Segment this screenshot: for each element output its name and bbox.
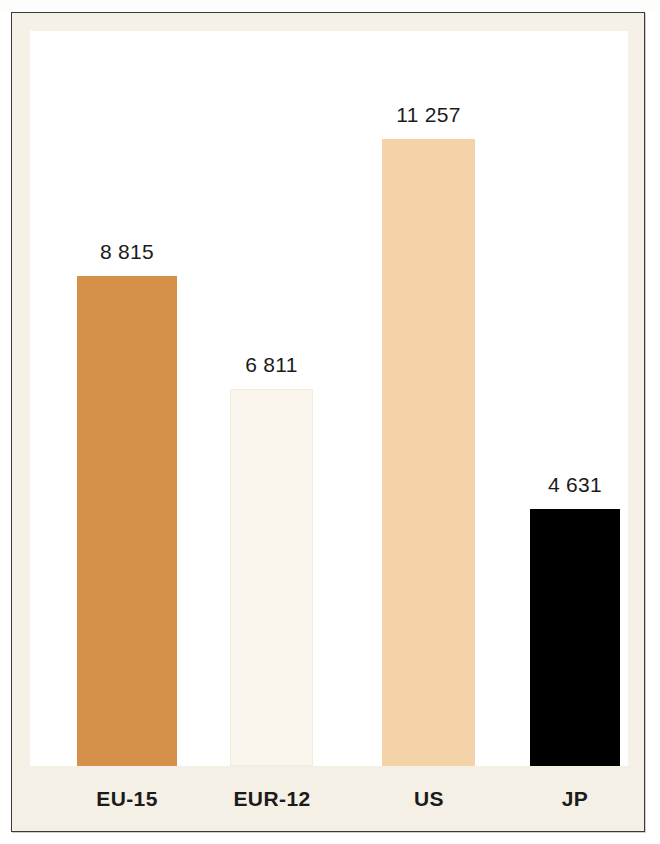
category-label-us: US	[414, 787, 444, 811]
bar-group-eu-15: 8 815	[77, 31, 177, 766]
bar-rect-jp	[530, 509, 620, 766]
category-label-eur-12: EUR-12	[233, 787, 310, 811]
category-axis-band: EU-15 EUR-12 US JP	[12, 766, 644, 831]
bar-value-label: 11 257	[396, 103, 460, 127]
bar-value-label: 6 811	[245, 353, 298, 377]
bar-group-us: 11 257	[382, 31, 475, 766]
bar-value-label: 8 815	[100, 240, 154, 264]
scan-noise-strip	[0, 0, 660, 11]
bar-value-label: 4 631	[548, 473, 602, 497]
bar-rect-us	[382, 139, 475, 766]
bar-rect-eur-12	[230, 389, 313, 766]
category-label-jp: JP	[562, 787, 589, 811]
category-label-eu-15: EU-15	[96, 787, 158, 811]
chart-plot-area: 8 815 6 811 11 257 4 631	[30, 31, 628, 766]
chart-figure-frame: 8 815 6 811 11 257 4 631 EU-15 EUR-12 US…	[11, 12, 645, 832]
bar-group-eur-12: 6 811	[230, 31, 313, 766]
bar-rect-eu-15	[77, 276, 177, 766]
bar-group-jp: 4 631	[530, 31, 620, 766]
